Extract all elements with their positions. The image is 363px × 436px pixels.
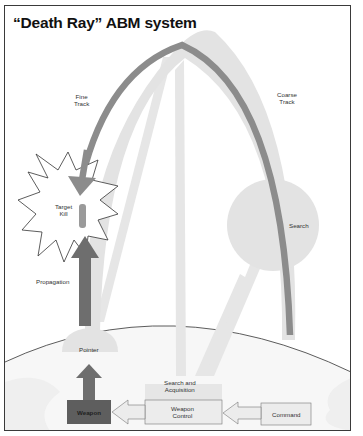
- weapon-label: Weapon: [77, 409, 101, 416]
- command-label: Command: [272, 411, 301, 418]
- fine-track-label-line2: Track: [74, 100, 89, 107]
- coarse-track-label: Coarse Track: [277, 91, 297, 105]
- fine-track-label-line1: Fine: [74, 93, 89, 100]
- weapon-control-label-line2: Control: [171, 412, 194, 419]
- search-label: Search: [289, 222, 309, 229]
- weapon-control-label-line1: Weapon: [171, 405, 194, 412]
- diagram-frame: [4, 5, 351, 431]
- target-kill-label-line2: Kill: [55, 210, 72, 217]
- target-kill-label: Target Kill: [55, 203, 72, 217]
- propagation-label: Propagation: [36, 278, 69, 285]
- search-acquisition-label: Search and Acquisition: [164, 379, 196, 393]
- search-acquisition-label-line1: Search and: [164, 379, 196, 386]
- coarse-track-label-line2: Track: [277, 98, 297, 105]
- search-acquisition-label-line2: Acquisition: [164, 386, 196, 393]
- target-kill-label-line1: Target: [55, 203, 72, 210]
- weapon-control-label: Weapon Control: [171, 405, 194, 419]
- diagram-title: “Death Ray” ABM system: [13, 14, 197, 32]
- pointer-label: Pointer: [79, 346, 99, 353]
- coarse-track-label-line1: Coarse: [277, 91, 297, 98]
- fine-track-label: Fine Track: [74, 93, 89, 107]
